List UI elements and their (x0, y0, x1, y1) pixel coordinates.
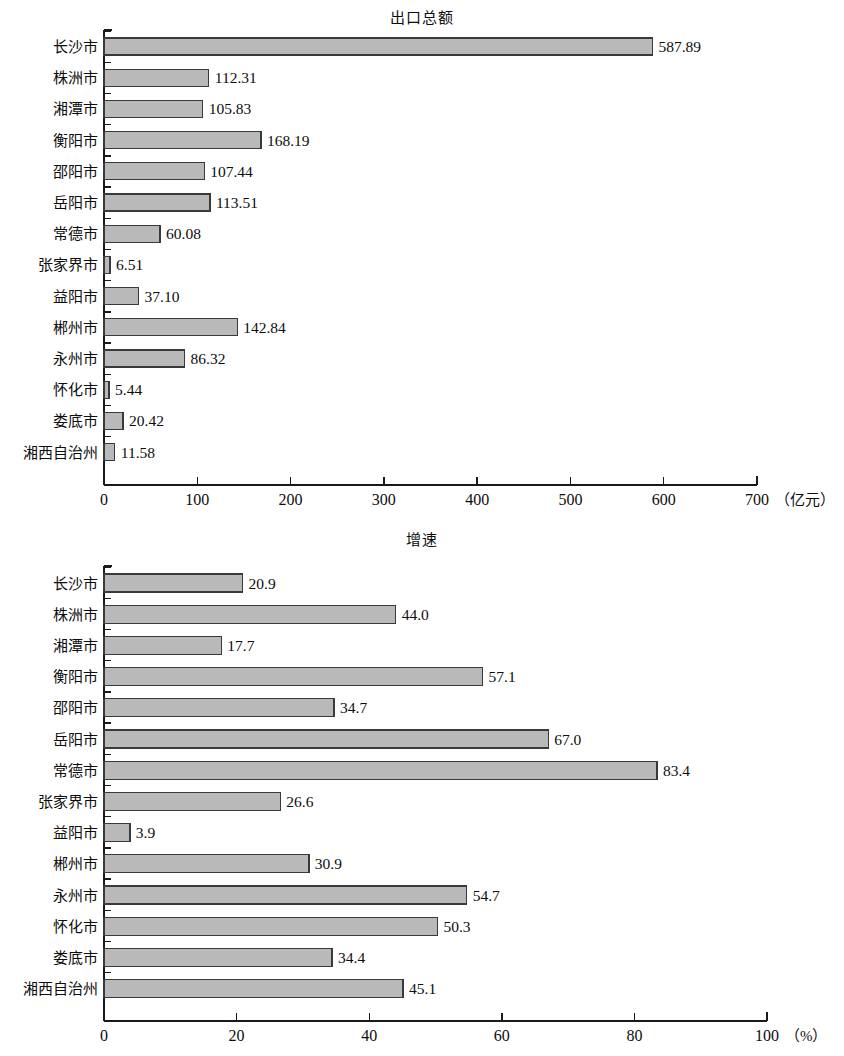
bar[interactable] (104, 319, 237, 336)
bar[interactable] (104, 194, 210, 211)
bar[interactable] (104, 100, 203, 117)
x-axis-tick-label: 200 (279, 491, 303, 508)
bar[interactable] (104, 668, 483, 686)
category-label: 娄底市 (53, 413, 98, 429)
value-label: 44.0 (402, 606, 429, 623)
x-axis-unit-label: （%） (785, 1028, 828, 1044)
value-label: 20.9 (249, 575, 276, 592)
x-axis-tick-label: 80 (626, 1027, 642, 1044)
value-label: 86.32 (191, 350, 226, 367)
growth-rate-chart: 增速 长沙市20.9株洲市44.0湘潭市17.7衡阳市57.1邵阳市34.7岳阳… (0, 522, 844, 1056)
category-label: 湘潭市 (53, 101, 98, 117)
value-label: 105.83 (209, 100, 252, 117)
value-label: 17.7 (227, 637, 254, 654)
bar[interactable] (104, 761, 657, 779)
chart-title-growth: 增速 (0, 528, 844, 549)
chart-page: 出口总额 长沙市587.89株洲市112.31湘潭市105.83衡阳市168.1… (0, 0, 844, 1056)
value-label: 3.9 (136, 824, 156, 841)
value-label: 57.1 (489, 668, 516, 685)
export-total-chart: 出口总额 长沙市587.89株洲市112.31湘潭市105.83衡阳市168.1… (0, 0, 844, 520)
category-label: 永州市 (53, 888, 98, 904)
chart-title-export: 出口总额 (0, 6, 844, 27)
bar[interactable] (104, 730, 548, 748)
x-axis-tick-label: 400 (465, 491, 489, 508)
bar[interactable] (104, 574, 243, 592)
value-label: 112.31 (215, 69, 257, 86)
category-label: 湘潭市 (53, 638, 98, 654)
bar[interactable] (104, 855, 309, 873)
bar[interactable] (104, 948, 332, 966)
category-label: 株洲市 (53, 607, 98, 623)
growth-rate-plot: 长沙市20.9株洲市44.0湘潭市17.7衡阳市57.1邵阳市34.7岳阳市67… (0, 548, 844, 1048)
bar[interactable] (104, 132, 261, 149)
bar[interactable] (104, 824, 130, 842)
bar[interactable] (104, 69, 209, 86)
x-axis-tick-label: 100 (185, 491, 209, 508)
bar[interactable] (104, 917, 437, 935)
x-axis-tick-label: 20 (229, 1027, 245, 1044)
category-label: 衡阳市 (53, 133, 98, 149)
bar[interactable] (104, 886, 467, 904)
category-label: 郴州市 (53, 856, 98, 872)
bar[interactable] (104, 288, 139, 305)
x-axis-tick-label: 100 (755, 1027, 779, 1044)
category-label: 长沙市 (53, 39, 98, 55)
bar[interactable] (104, 444, 115, 461)
category-label: 怀化市 (53, 919, 98, 935)
value-label: 142.84 (243, 319, 286, 336)
x-axis-tick-label: 300 (372, 491, 396, 508)
category-label: 岳阳市 (53, 195, 98, 211)
category-label: 益阳市 (53, 289, 98, 305)
value-label: 45.1 (409, 980, 436, 997)
x-axis-tick-label: 600 (652, 491, 676, 508)
export-total-plot: 长沙市587.89株洲市112.31湘潭市105.83衡阳市168.19邵阳市1… (0, 26, 844, 516)
x-axis-unit-label: （亿元） (775, 492, 835, 508)
category-label: 长沙市 (53, 576, 98, 592)
bar[interactable] (104, 605, 396, 623)
value-label: 11.58 (121, 444, 156, 461)
bar[interactable] (104, 381, 109, 398)
bar[interactable] (104, 699, 334, 717)
value-label: 587.89 (658, 38, 701, 55)
category-label: 永州市 (53, 351, 98, 367)
bar[interactable] (104, 980, 403, 998)
value-label: 5.44 (115, 381, 142, 398)
bar[interactable] (104, 38, 652, 55)
category-label: 邵阳市 (53, 164, 98, 180)
bar[interactable] (104, 636, 221, 654)
category-label: 郴州市 (53, 320, 98, 336)
bar[interactable] (104, 163, 204, 180)
value-label: 37.10 (145, 288, 180, 305)
bar[interactable] (104, 792, 280, 810)
bar[interactable] (104, 350, 185, 367)
category-label: 株洲市 (53, 70, 98, 86)
category-label: 张家界市 (38, 794, 98, 810)
bar[interactable] (104, 256, 110, 273)
value-label: 67.0 (554, 731, 581, 748)
value-label: 113.51 (216, 194, 258, 211)
category-label: 常德市 (53, 225, 98, 242)
value-label: 34.4 (338, 949, 365, 966)
category-label: 常德市 (53, 762, 98, 779)
value-label: 107.44 (210, 163, 253, 180)
x-axis-tick-label: 0 (100, 491, 108, 508)
category-label: 娄底市 (53, 950, 98, 966)
value-label: 60.08 (166, 225, 201, 242)
category-label: 怀化市 (53, 382, 98, 398)
bar[interactable] (104, 412, 123, 429)
category-label: 湘西自治州 (23, 445, 98, 461)
value-label: 30.9 (315, 855, 342, 872)
category-label: 张家界市 (38, 257, 98, 273)
value-label: 34.7 (340, 699, 367, 716)
x-axis-tick-label: 0 (100, 1027, 108, 1044)
value-label: 83.4 (663, 762, 690, 779)
value-label: 50.3 (443, 918, 470, 935)
value-label: 54.7 (473, 887, 500, 904)
x-axis-tick-label: 60 (494, 1027, 510, 1044)
value-label: 168.19 (267, 132, 310, 149)
x-axis-tick-label: 500 (558, 491, 582, 508)
category-label: 益阳市 (53, 825, 98, 841)
category-label: 湘西自治州 (23, 981, 98, 997)
category-label: 邵阳市 (53, 700, 98, 716)
bar[interactable] (104, 225, 160, 242)
